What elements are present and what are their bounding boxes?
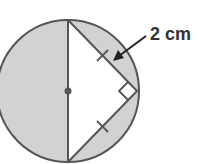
center-dot — [65, 88, 72, 95]
measurement-label: 2 cm — [150, 24, 191, 44]
circle-diagram: 2 cm — [0, 0, 198, 164]
